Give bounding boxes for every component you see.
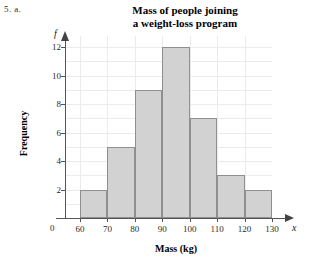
x-axis-tick [245, 218, 246, 222]
y-axis-tick [61, 47, 66, 48]
histogram-bar [162, 47, 189, 218]
histogram-bar [245, 190, 272, 219]
y-axis-tick-label: 12 [21, 43, 61, 52]
y-axis-variable-label: f [54, 28, 57, 39]
y-axis-tick-label: 10 [21, 72, 61, 81]
origin-label: 0 [50, 223, 55, 233]
x-axis-tick [272, 218, 273, 222]
histogram-bar [135, 90, 162, 218]
x-axis-tick-label: 130 [257, 224, 287, 234]
histogram-bar [190, 118, 217, 218]
y-axis-tick [61, 161, 66, 162]
x-axis-tick [190, 218, 191, 222]
x-axis-tick [80, 218, 81, 222]
x-axis-tick [217, 218, 218, 222]
histogram-plot: f x 0 24681012 60708090100110120130 Freq… [0, 0, 309, 263]
y-axis-title: Frequency [18, 94, 29, 174]
x-axis-tick-label: 120 [230, 224, 260, 234]
x-axis-tick [135, 218, 136, 222]
histogram-bar [80, 190, 107, 219]
x-axis-variable-label: x [292, 222, 296, 233]
y-axis-tick [61, 133, 66, 134]
x-axis-tick-label: 100 [175, 224, 205, 234]
y-axis-tick [61, 104, 66, 105]
x-axis-title: Mass (kg) [86, 243, 266, 254]
x-axis-tick [107, 218, 108, 222]
x-axis-arrow-icon [285, 214, 294, 222]
x-axis-tick-label: 90 [147, 224, 177, 234]
x-axis-tick-label: 60 [65, 224, 95, 234]
histogram-bar [217, 175, 244, 218]
x-axis-tick-label: 70 [92, 224, 122, 234]
x-axis-line [56, 218, 286, 219]
y-axis-line [65, 40, 66, 219]
y-axis-tick-label: 2 [21, 186, 61, 195]
x-axis-tick-label: 110 [202, 224, 232, 234]
y-axis-arrow-icon [61, 31, 69, 41]
x-axis-tick-label: 80 [120, 224, 150, 234]
y-axis-tick [61, 190, 66, 191]
histogram-bar [107, 147, 134, 218]
x-axis-tick [162, 218, 163, 222]
y-axis-tick [61, 76, 66, 77]
